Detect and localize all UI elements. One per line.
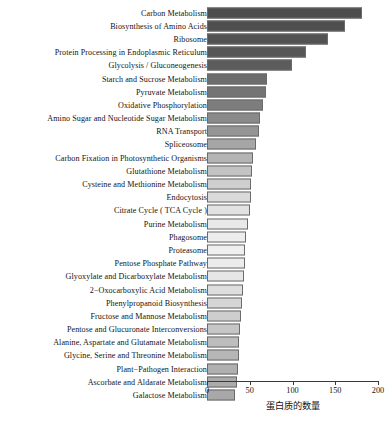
bar-row: Amino Sugar and Nucleotide Sugar Metabol… — [0, 112, 392, 125]
bar-track — [207, 20, 378, 31]
bar-track — [207, 350, 378, 361]
bar-row: Pentose Phosphate Pathway — [0, 257, 392, 270]
bar-category-label: Oxidative Phosphorylation — [118, 100, 207, 109]
bar-track — [207, 218, 378, 229]
bar-track — [207, 60, 378, 71]
bar-row: Purine Metabolism — [0, 217, 392, 230]
bar-row: Glycolysis / Gluconeogenesis — [0, 59, 392, 72]
bar-row: Citrate Cycle ( TCA Cycle ) — [0, 204, 392, 217]
bar-category-label: Protein Processing in Endoplasmic Reticu… — [55, 48, 207, 57]
bar-category-label: Amino Sugar and Nucleotide Sugar Metabol… — [47, 114, 207, 123]
x-axis-tick — [335, 381, 336, 385]
bar-category-label: Citrate Cycle ( TCA Cycle ) — [114, 206, 207, 215]
x-axis-tick — [207, 381, 208, 385]
bar-category-label: Carbon Fixation in Photosynthetic Organi… — [55, 153, 207, 162]
bar — [207, 47, 306, 58]
bar-category-label: Fructose and Mannose Metabolism — [91, 311, 207, 320]
bar — [207, 244, 245, 255]
bar-track — [207, 152, 378, 163]
bar-category-label: Glycine, Serine and Threonine Metabolism — [64, 351, 207, 360]
bar — [207, 139, 256, 150]
bar-row: Cysteine and Methionine Metabolism — [0, 177, 392, 190]
bar-category-label: Cysteine and Methionine Metabolism — [82, 180, 207, 189]
bar — [207, 258, 245, 269]
bar-track — [207, 73, 378, 84]
bar-track — [207, 337, 378, 348]
bar-track — [207, 99, 378, 110]
bar-category-label: Glutathione Metabolism — [126, 166, 207, 175]
bar — [207, 20, 345, 31]
bar-track — [207, 7, 378, 18]
bar — [207, 86, 266, 97]
bar-category-label: Glycolysis / Gluconeogenesis — [109, 61, 207, 70]
bar-track — [207, 284, 378, 295]
bar-track — [207, 310, 378, 321]
bar-category-label: Pentose and Glucuronate Interconversions — [67, 325, 207, 334]
x-axis-tick-label: 200 — [372, 386, 384, 395]
bar-category-label: RNA Transport — [156, 127, 207, 136]
bar-category-label: Phagosome — [169, 232, 207, 241]
bar — [207, 231, 246, 242]
bar-track — [207, 297, 378, 308]
bar-category-label: Glyoxylate and Dicarboxylate Metabolism — [66, 272, 207, 281]
bar-track — [207, 126, 378, 137]
bar — [207, 297, 242, 308]
bar-row: Spliceosome — [0, 138, 392, 151]
x-axis-tick — [250, 381, 251, 385]
bar-track — [207, 113, 378, 124]
bar-row: Biosynthesis of Amino Acids — [0, 19, 392, 32]
bar-track — [207, 363, 378, 374]
bar-row: RNA Transport — [0, 125, 392, 138]
bar-category-label: Spliceosome — [165, 140, 207, 149]
bar-row: Ribosome — [0, 32, 392, 45]
bar-row: Proteasome — [0, 243, 392, 256]
bar-track — [207, 271, 378, 282]
x-axis-tick-label: 0 — [205, 386, 209, 395]
bar — [207, 271, 244, 282]
bar — [207, 126, 259, 137]
bar-row: Carbon Metabolism — [0, 6, 392, 19]
bar-track — [207, 324, 378, 335]
bar-track — [207, 33, 378, 44]
bar — [207, 7, 362, 18]
bar-track — [207, 231, 378, 242]
bar — [207, 218, 248, 229]
bar-row: Endocytosis — [0, 191, 392, 204]
bar — [207, 350, 239, 361]
bar-row: Plant−Pathogen Interaction — [0, 362, 392, 375]
bar-category-label: Pyruvate Metabolism — [136, 87, 207, 96]
bar-category-label: Proteasome — [168, 245, 207, 254]
bar-category-label: Ribosome — [174, 34, 207, 43]
x-axis-tick-label: 150 — [329, 386, 341, 395]
bar — [207, 324, 240, 335]
bar-category-label: Endocytosis — [167, 193, 207, 202]
bar-row: Phenylpropanoid Biosynthesis — [0, 296, 392, 309]
bar — [207, 60, 292, 71]
x-axis-tick-label: 100 — [286, 386, 298, 395]
bar-track — [207, 86, 378, 97]
bar-category-label: 2−Oxocarboxylic Acid Metabolism — [90, 285, 207, 294]
bar-category-label: Plant−Pathogen Interaction — [116, 364, 207, 373]
bar-category-label: Ascorbate and Aldarate Metabolism — [88, 377, 207, 386]
bar — [207, 179, 251, 190]
bar-track — [207, 258, 378, 269]
bar-row: 2−Oxocarboxylic Acid Metabolism — [0, 283, 392, 296]
bar-rows: Carbon MetabolismBiosynthesis of Amino A… — [0, 6, 392, 402]
bar-track — [207, 165, 378, 176]
bar-row: Glycine, Serine and Threonine Metabolism — [0, 349, 392, 362]
bar-track — [207, 244, 378, 255]
bar — [207, 284, 243, 295]
bar-row: Pyruvate Metabolism — [0, 85, 392, 98]
bar — [207, 165, 252, 176]
bar-category-label: Pentose Phosphate Pathway — [115, 259, 207, 268]
bar-track — [207, 139, 378, 150]
bar — [207, 192, 251, 203]
bar — [207, 33, 328, 44]
bar-track — [207, 192, 378, 203]
bar — [207, 73, 267, 84]
bar-track — [207, 47, 378, 58]
bar-track — [207, 205, 378, 216]
bar-row: Pentose and Glucuronate Interconversions — [0, 323, 392, 336]
x-axis-tick — [293, 381, 294, 385]
bar — [207, 337, 239, 348]
